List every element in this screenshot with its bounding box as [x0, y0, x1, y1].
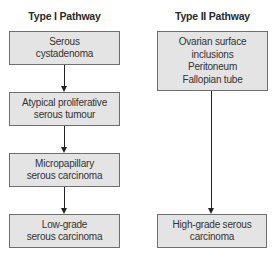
- box-label: Micropapillary serous carcinoma: [27, 158, 103, 183]
- box-label: Ovarian surface inclusions Peritoneum Fa…: [179, 36, 247, 86]
- high-grade-box: High-grade serous carcinoma: [157, 214, 267, 248]
- type-1-title: Type I Pathway: [9, 10, 120, 22]
- box-label: Low-grade serous carcinoma: [27, 219, 103, 244]
- ovarian-surface-box: Ovarian surface inclusions Peritoneum Fa…: [157, 31, 268, 91]
- box-label: Serous cystadenoma: [36, 36, 93, 61]
- box-label: Atypical proliferative serous tumour: [22, 97, 107, 122]
- atypical-proliferative-box: Atypical proliferative serous tumour: [9, 92, 120, 126]
- low-grade-box: Low-grade serous carcinoma: [9, 214, 120, 248]
- arrow-line: [64, 126, 65, 147]
- box-label: High-grade serous carcinoma: [173, 219, 252, 244]
- arrow-line: [211, 91, 212, 208]
- arrow-line: [64, 65, 65, 86]
- micropapillary-box: Micropapillary serous carcinoma: [9, 153, 120, 187]
- arrow-line: [64, 187, 65, 208]
- serous-cystadenoma-box: Serous cystadenoma: [9, 31, 120, 65]
- type-2-title: Type II Pathway: [157, 10, 268, 22]
